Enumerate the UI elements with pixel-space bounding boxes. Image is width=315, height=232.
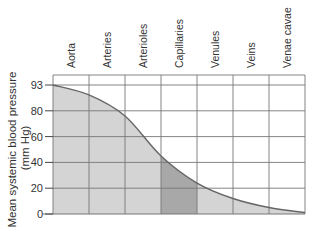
y-axis-title: Mean systemic blood pressure (mm Hg): [6, 68, 31, 227]
category-label-arterioles: Arterioles: [137, 24, 149, 68]
category-label-venae-cavae: Venae cavae: [281, 7, 293, 68]
y-tick-label: 80: [31, 105, 43, 117]
y-axis-ticks: 02040608093: [31, 79, 53, 220]
y-tick-label: 60: [31, 131, 43, 143]
y-tick-label: 93: [31, 79, 43, 91]
y-tick-label: 0: [37, 208, 43, 220]
category-label-arteries: Arteries: [101, 32, 113, 68]
category-label-veins: Veins: [245, 42, 257, 68]
y-axis-title-line-1: Mean systemic blood pressure: [6, 72, 18, 228]
category-label-venules: Venules: [209, 31, 221, 68]
blood-pressure-chart: 02040608093 AortaArteriesArteriolesCapil…: [0, 0, 315, 232]
capillaries-highlight: [161, 75, 197, 214]
y-axis-title-line-2: (mm Hg): [19, 125, 31, 170]
category-label-aorta: Aorta: [65, 43, 77, 68]
y-tick-label: 20: [31, 182, 43, 194]
y-tick-label: 40: [31, 156, 43, 168]
category-label-capillaries: Capillaries: [173, 19, 185, 68]
category-labels: AortaArteriesArteriolesCapillariesVenule…: [65, 7, 293, 68]
